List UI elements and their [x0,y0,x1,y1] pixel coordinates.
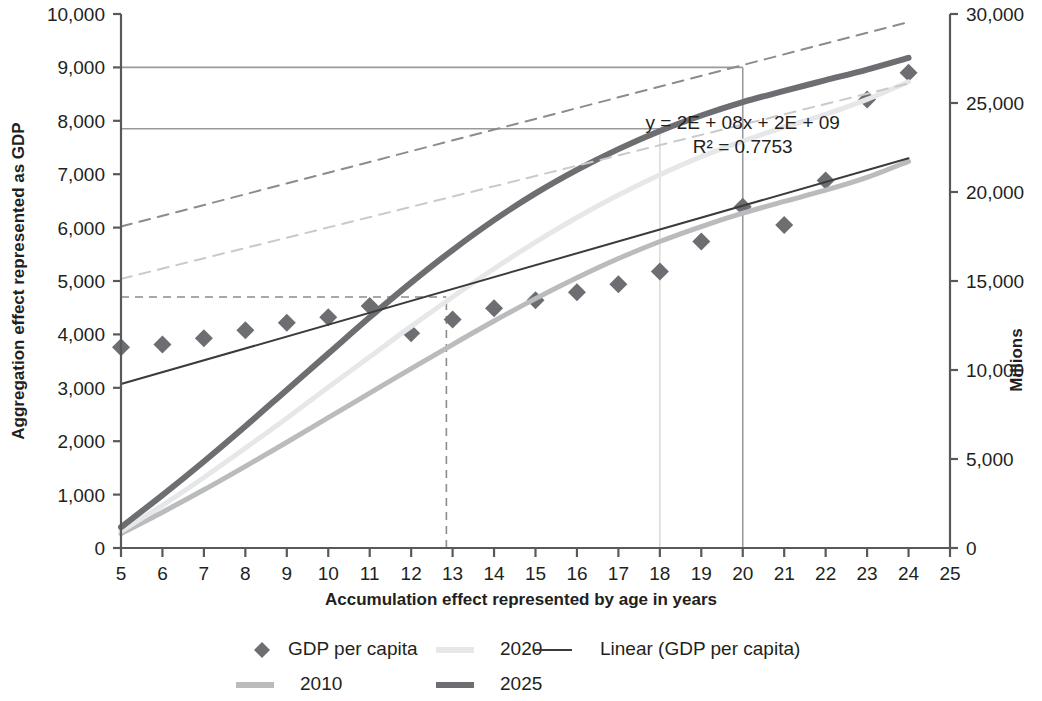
legend-item-linear-gdp-per-capita-label[interactable]: Linear (GDP per capita) [600,638,800,659]
y-tick-label: 9,000 [57,57,105,78]
x-tick-label: 5 [116,563,127,584]
data-point-diamond [900,64,918,82]
y2-tick-label: 25,000 [966,93,1024,114]
x-tick-label: 17 [608,563,629,584]
y-tick-label: 3,000 [57,378,105,399]
data-point-diamond [692,232,710,250]
x-tick-label: 8 [240,563,251,584]
x-tick-label: 25 [939,563,960,584]
series-group [112,22,918,534]
y-tick-label: 4,000 [57,324,105,345]
legend-item-2020-label[interactable]: 2020 [500,638,542,659]
y2-tick-label: 20,000 [966,182,1024,203]
x-tick-label: 19 [691,563,712,584]
data-point-diamond [568,283,586,301]
x-tick-label: 10 [318,563,339,584]
legend-group: GDP per capita2020Linear (GDP per capita… [236,638,800,694]
y2-tick-label: 30,000 [966,4,1024,25]
y-tick-label: 8,000 [57,111,105,132]
x-tick-label: 21 [774,563,795,584]
r-squared: R² = 0.7753 [693,136,793,157]
x-tick-label: 18 [649,563,670,584]
x-tick-label: 15 [525,563,546,584]
legend-item-gdp-per-capita-label[interactable]: GDP per capita [288,638,418,659]
data-point-diamond [485,299,503,317]
y2-tick-label: 0 [966,538,977,559]
y2-tick-label: 15,000 [966,271,1024,292]
x-tick-label: 12 [401,563,422,584]
data-point-diamond [775,216,793,234]
data-point-diamond [195,329,213,347]
y2-tick-label: 10,000 [966,360,1024,381]
y-tick-label: 5,000 [57,271,105,292]
x-tick-label: 6 [157,563,168,584]
x-tick-label: 20 [732,563,753,584]
x-tick-label: 22 [815,563,836,584]
data-point-diamond [236,321,254,339]
scatter-line-chart: Aggregation effect represented as GDP Mi… [0,0,1042,701]
data-point-diamond [651,262,669,280]
reference-lines-group [121,67,743,548]
x-axis-title: Accumulation effect represented by age i… [325,590,717,609]
y-tick-label: 10,000 [47,4,105,25]
y-tick-label: 0 [94,538,105,559]
series-line-2010 [121,161,909,533]
data-point-diamond [153,336,171,354]
trendline-equation: y = 2E + 08x + 2E + 09 [646,112,840,133]
x-tick-label: 13 [442,563,463,584]
data-point-diamond [278,314,296,332]
x-tick-label: 7 [199,563,210,584]
data-point-diamond [609,275,627,293]
x-tick-label: 24 [898,563,920,584]
x-tick-label: 23 [857,563,878,584]
y2-tick-label: 5,000 [966,449,1014,470]
data-point-diamond [444,310,462,328]
y-axis-title: Aggregation effect represented as GDP [9,122,28,439]
x-tick-label: 11 [360,563,380,584]
x-tick-label: 14 [483,563,505,584]
x-tick-label: 16 [566,563,587,584]
legend-item-gdp-per-capita-marker [254,642,270,658]
x-tick-label: 9 [282,563,293,584]
chart-container: Aggregation effect represented as GDP Mi… [0,0,1042,701]
y-tick-label: 1,000 [57,485,105,506]
legend-item-2025-label[interactable]: 2025 [500,673,542,694]
legend-item-2010-label[interactable]: 2010 [300,673,342,694]
y-tick-label: 2,000 [57,431,105,452]
y-tick-label: 6,000 [57,218,105,239]
series-line-linear-gdp-per-capita [121,158,909,384]
y-tick-label: 7,000 [57,164,105,185]
